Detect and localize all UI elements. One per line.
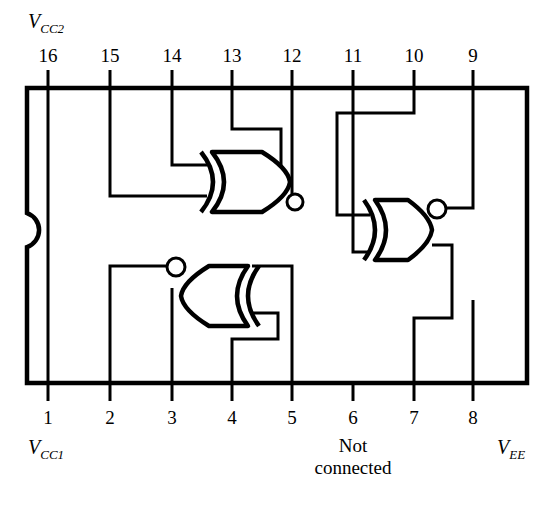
vcc2-subscript: CC2 [40, 21, 64, 36]
vcc2-symbol: V [28, 10, 40, 32]
pin-number-8: 8 [468, 407, 478, 428]
pin-number-6: 6 [348, 407, 358, 428]
gate-2-xnor [364, 200, 446, 260]
pin-number-5: 5 [287, 407, 297, 428]
pin-number-16: 16 [39, 45, 58, 66]
pin-leads-top [48, 70, 473, 88]
gate-3-xor-arc [248, 266, 259, 326]
vcc1-subscript: CC1 [40, 447, 64, 462]
gate-1-xor-arc [201, 152, 213, 212]
ic-pinout-svg: 16 15 14 13 12 11 10 9 1 2 3 4 5 6 7 8 [0, 0, 559, 506]
gate-3-output-bubble [167, 258, 185, 276]
label-vee: VEE [497, 436, 525, 463]
gate-2-output-bubble [428, 200, 446, 218]
pin-numbers-bottom: 1 2 3 4 5 6 7 8 [43, 407, 478, 428]
not-connected-line-2: connected [293, 457, 413, 479]
wire-pin-2-gate3-output [110, 266, 170, 383]
pin-number-12: 12 [283, 45, 302, 66]
wire-pin-10-gate2-input-upper [337, 88, 414, 215]
pin-number-14: 14 [163, 45, 183, 66]
pin-number-10: 10 [405, 45, 424, 66]
wire-pin-15-gate1-input-lower [110, 88, 207, 196]
pin-number-15: 15 [101, 45, 120, 66]
gate-1-body [212, 152, 290, 212]
pin-number-7: 7 [409, 407, 419, 428]
wire-pin-9-gate2-output [442, 88, 473, 208]
vee-subscript: EE [509, 447, 525, 462]
not-connected-line-1: Not [293, 435, 413, 457]
gate-1-xnor [201, 152, 303, 212]
gate-3-body [181, 266, 248, 326]
pin-number-9: 9 [468, 45, 478, 66]
pin-number-13: 13 [223, 45, 242, 66]
gate-1-output-bubble [287, 194, 303, 210]
pin-number-4: 4 [227, 407, 237, 428]
gate-3-xnor [167, 258, 259, 326]
pin-leads-bottom [48, 383, 473, 401]
pin-number-11: 11 [344, 45, 362, 66]
label-vcc1: VCC1 [28, 436, 64, 463]
pin-number-2: 2 [105, 407, 115, 428]
wire-pin-12-gate1-output [292, 88, 300, 202]
gate-2-body [375, 200, 432, 260]
pinout-diagram-root: 16 15 14 13 12 11 10 9 1 2 3 4 5 6 7 8 V… [0, 0, 559, 506]
label-vcc2: VCC2 [28, 10, 64, 37]
label-not-connected: Not connected [293, 435, 413, 479]
pin-number-1: 1 [43, 407, 53, 428]
vee-symbol: V [497, 436, 509, 458]
pin-number-3: 3 [167, 407, 177, 428]
wire-pin-7 [414, 245, 452, 383]
vcc1-symbol: V [28, 436, 40, 458]
pin-numbers-top: 16 15 14 13 12 11 10 9 [39, 45, 478, 66]
